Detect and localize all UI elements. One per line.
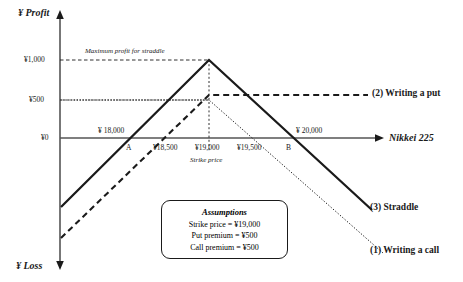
y-axis-down-arrow (56, 261, 64, 270)
y-axis-title: ¥ Profit (18, 8, 49, 18)
x-tick-point-a: A (126, 144, 131, 152)
x-tick-18500: ¥18,500 (153, 144, 177, 152)
x-tick-18000: ¥ 18,000 (98, 127, 124, 135)
assumptions-title: Assumptions (202, 207, 247, 217)
y-axis-bottom-label: ¥ Loss (16, 261, 42, 271)
x-axis-title: Nikkei 225 (389, 133, 434, 143)
series-label-writing-a-call: (1) Writing a call (370, 246, 439, 256)
y-tick-1000: ¥1,000 (24, 56, 45, 64)
assumptions-put-premium: Put premium = ¥500 (191, 231, 257, 240)
y-tick-500: ¥500 (29, 96, 44, 104)
assumptions-box: Assumptions Strike price = ¥19,000 Put p… (161, 200, 288, 259)
series-straddle (61, 60, 372, 210)
x-tick-19500: ¥19,500 (237, 144, 261, 152)
max-profit-annotation: Maximum profit for straddle (85, 48, 165, 55)
assumptions-strike-price: Strike price = ¥19,000 (189, 220, 261, 229)
series-label-straddle: (3) Straddle (370, 203, 418, 213)
x-tick-19000: ¥19,000 (195, 144, 219, 152)
series-label-writing-a-put: (2) Writing a put (372, 89, 441, 99)
straddle-payoff-chart: ¥ Profit ¥ Loss Nikkei 225 ¥1,000 ¥500 ¥… (0, 0, 463, 282)
x-axis-right-arrow (375, 134, 384, 142)
assumptions-call-premium: Call premium = ¥500 (190, 243, 259, 252)
y-axis-up-arrow (56, 10, 64, 19)
strike-price-caption: Strike price (190, 157, 222, 164)
x-tick-point-b: B (286, 144, 291, 152)
x-tick-20000: ¥ 20,000 (296, 127, 322, 135)
y-tick-0: ¥0 (41, 134, 49, 142)
